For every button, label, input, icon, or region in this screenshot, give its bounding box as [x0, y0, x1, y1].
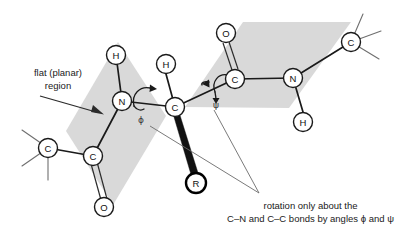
rotation-caption-line-2: C–N and C–C bonds by angles ϕ and ψ — [218, 213, 403, 226]
flat-planar-region-line-2: region — [12, 80, 104, 93]
molecule-drawing-canvas: ϕ ψ C C O N H C H — [0, 0, 405, 233]
atom-label-r-group: R — [193, 178, 200, 189]
atom-label-n-amide-left: N — [119, 96, 126, 107]
peptide-plane-right-shading — [185, 22, 351, 108]
atom-label-h-alpha: H — [163, 59, 170, 70]
atom-label-o-carbonyl-left: O — [100, 202, 107, 213]
phi-rotation-arrow-head — [150, 85, 158, 93]
caption-leader-to-psi — [214, 110, 259, 193]
atom-label-h-amide-left: H — [113, 50, 120, 61]
wedge-bond-calpha-rgroup — [173, 111, 200, 179]
psi-symbol-label: ψ — [213, 100, 219, 110]
flat-planar-region-line-1: flat (planar) — [12, 67, 104, 80]
flat-planar-region-label: flat (planar) region — [12, 67, 104, 92]
rotation-caption: rotation only about the C–N and C–C bond… — [218, 200, 403, 225]
atom-label-n-amide-right: N — [290, 73, 297, 84]
atom-label-o-carbonyl-right: O — [222, 28, 229, 39]
phi-symbol-label: ϕ — [138, 115, 144, 125]
atom-label-c-carbonyl-right: C — [232, 74, 239, 85]
atom-label-c-carbonyl-left: C — [90, 151, 97, 162]
atom-label-c-methyl-left: C — [45, 143, 52, 154]
atom-label-c-alpha: C — [172, 102, 179, 113]
atom-label-h-amide-right: H — [300, 117, 307, 128]
peptide-backbone-figure: ϕ ψ C C O N H C H — [0, 0, 405, 233]
atom-label-c-methyl-right: C — [348, 37, 355, 48]
rotation-caption-line-1: rotation only about the — [218, 200, 403, 213]
